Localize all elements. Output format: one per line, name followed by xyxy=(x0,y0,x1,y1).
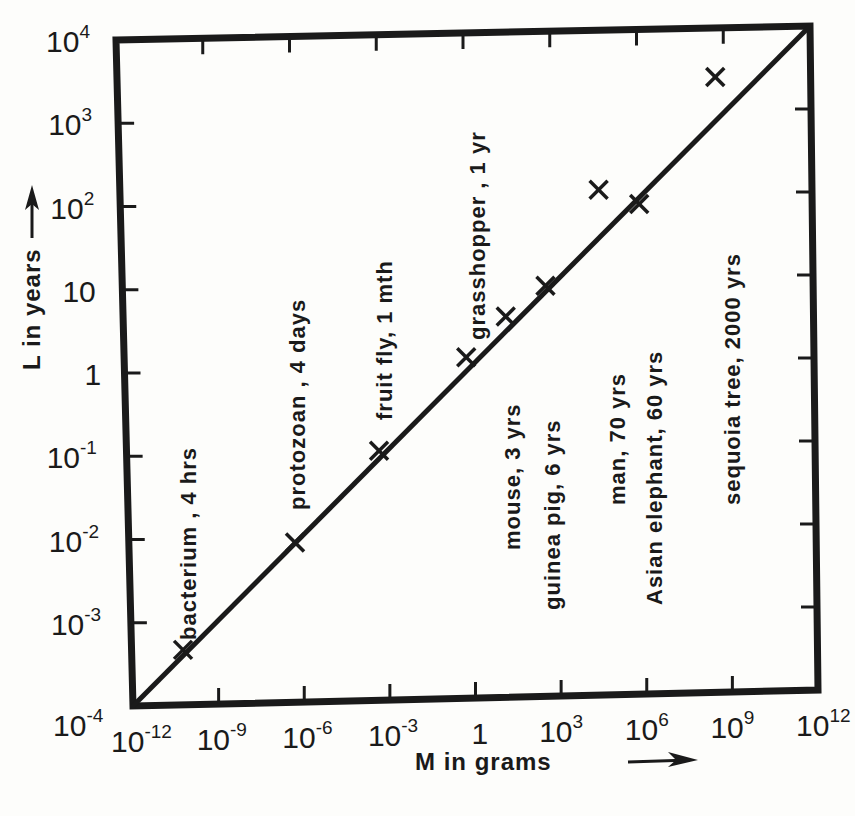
y-tick-exponent: -1 xyxy=(80,437,97,458)
y-tick-exponent: -4 xyxy=(86,705,103,726)
x-tick-exponent: 3 xyxy=(573,711,584,732)
y-tick-labels: 10410310210110-110-210-310-4 xyxy=(46,21,104,742)
y-axis-title-group: L in years xyxy=(18,185,45,370)
plot-frame xyxy=(116,26,818,706)
x-tick-exponent: -3 xyxy=(401,715,418,736)
x-tick-label: 103 xyxy=(539,711,583,748)
y-axis-title: L in years xyxy=(18,248,45,370)
y-tick-label: 102 xyxy=(50,188,94,225)
x-tick-label: 109 xyxy=(710,707,754,744)
y-tick-exponent: 2 xyxy=(84,188,95,209)
x-tick-label: 106 xyxy=(625,709,669,746)
x-tick-exponent: -9 xyxy=(230,719,247,740)
point-label: mouse, 3 yrs xyxy=(500,403,525,550)
x-tick-label: 10-3 xyxy=(368,715,418,752)
y-tick-label: 10-4 xyxy=(53,705,104,742)
point-label: fruit fly, 1 mth xyxy=(372,260,397,420)
y-tick-exponent: -3 xyxy=(84,604,101,625)
point-label: grasshopper , 1 yr xyxy=(465,131,490,340)
point-label: guinea pig, 6 yrs xyxy=(540,419,565,610)
point-label: protozoan , 4 days xyxy=(285,299,310,510)
point-label: bacterium , 4 hrs xyxy=(176,447,201,640)
x-tick-label: 1 xyxy=(472,717,489,750)
x-marker-icon xyxy=(457,348,475,366)
y-tick-exponent: 3 xyxy=(82,104,93,125)
x-marker-icon xyxy=(706,68,724,86)
y-tick-label: 104 xyxy=(46,21,90,58)
y-tick-label: 1 xyxy=(85,358,102,391)
point-label: man, 70 yrs xyxy=(605,373,630,505)
x-axis-arrow-icon xyxy=(628,752,698,767)
x-marker-icon xyxy=(497,307,515,325)
fit-line-path xyxy=(133,26,810,706)
point-labels: bacterium , 4 hrsprotozoan , 4 daysfruit… xyxy=(176,131,745,640)
x-tick-exponent: 9 xyxy=(744,707,755,728)
y-tick-label: 10-1 xyxy=(47,437,97,474)
y-tick-label: 10 xyxy=(62,275,95,308)
point-label: sequoia tree, 2000 yrs xyxy=(720,253,745,505)
x-tick-label: 10-12 xyxy=(111,721,172,758)
fit-line xyxy=(133,26,810,706)
y-tick-exponent: -2 xyxy=(82,521,99,542)
x-tick-exponent: -12 xyxy=(144,721,171,742)
y-tick-label: 10-3 xyxy=(51,604,101,641)
y-tick-exponent: 4 xyxy=(79,21,90,42)
point-label: Asian elephant, 60 yrs xyxy=(642,351,667,605)
x-tick-label: 10-6 xyxy=(282,717,332,754)
x-axis-title-group: M in grams xyxy=(415,748,698,775)
y-tick-label: 10-2 xyxy=(49,521,99,558)
axis-ticks xyxy=(118,28,817,704)
x-tick-label: 10-9 xyxy=(197,719,247,756)
x-tick-label: 1012 xyxy=(796,705,851,742)
x-tick-exponent: -6 xyxy=(316,717,333,738)
chart: 10-1210-910-610-311031061091012 10410310… xyxy=(0,0,855,816)
x-marker-icon xyxy=(590,181,608,199)
x-axis-title: M in grams xyxy=(415,748,552,775)
plot-border xyxy=(116,26,818,706)
x-tick-exponent: 12 xyxy=(829,705,850,726)
y-tick-label: 103 xyxy=(48,104,92,141)
x-tick-exponent: 6 xyxy=(658,709,669,730)
y-axis-arrow-icon xyxy=(25,185,39,238)
x-marker-icon xyxy=(286,533,304,551)
